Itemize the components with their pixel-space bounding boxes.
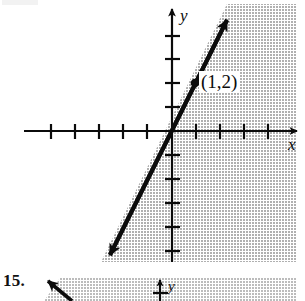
y-axis-label: y <box>178 6 188 25</box>
plotted-point-dot <box>191 79 200 88</box>
x-axis-label: x <box>287 135 296 154</box>
graph-figure: x y <box>0 0 305 266</box>
next-y-axis-label: y <box>166 278 175 294</box>
next-exercise-strip: y 15. <box>0 266 305 301</box>
point-label: (1,2) <box>199 71 240 93</box>
exercise-number: 15. <box>3 271 25 291</box>
figure-page: x y <box>0 0 305 301</box>
